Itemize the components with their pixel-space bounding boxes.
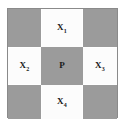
cell-label-p: P [59,61,65,72]
grid-cell-middle-right: X3 [83,47,117,85]
cell-label-x2: X2 [20,61,30,72]
grid-cell-top-right [83,9,117,47]
cell-label-x2-subscript: 2 [26,66,29,72]
grid-cell-middle-left: X2 [8,47,41,85]
cell-label-x4-base: X [57,96,64,106]
cell-label-x4-subscript: 4 [64,102,67,108]
grid-cell-center: P [41,47,83,85]
cell-label-p-base: P [59,60,65,70]
figure-root: X1 X2 P X3 X4 [0,0,126,126]
cell-label-x3-base: X [95,60,102,70]
grid-cell-top-left [8,9,41,47]
cell-label-x3: X3 [95,61,105,72]
cell-label-x1-subscript: 1 [64,28,67,34]
cell-label-x3-subscript: 3 [102,66,105,72]
grid-frame: X1 X2 P X3 X4 [7,8,118,118]
grid-cell-bottom-center: X4 [41,85,83,119]
cell-label-x1-base: X [57,22,64,32]
grid-cell-top-center: X1 [41,9,83,47]
cell-label-x1: X1 [57,23,67,34]
grid-cell-bottom-left [8,85,41,119]
grid-cell-bottom-right [83,85,117,119]
cell-label-x4: X4 [57,97,67,108]
